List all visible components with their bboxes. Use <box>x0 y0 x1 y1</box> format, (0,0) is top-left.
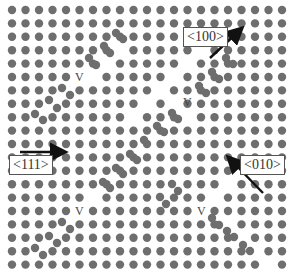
atom <box>116 113 124 121</box>
atom <box>21 140 29 148</box>
atom <box>48 33 56 41</box>
atom <box>224 113 232 121</box>
atom <box>278 260 286 268</box>
atom <box>116 73 124 81</box>
atom <box>264 234 272 242</box>
atom <box>89 140 97 148</box>
atom <box>48 46 56 54</box>
atom <box>35 46 43 54</box>
atom <box>8 19 16 27</box>
atom <box>160 128 168 136</box>
atom <box>102 220 110 228</box>
atom <box>35 86 43 94</box>
atom <box>8 220 16 228</box>
atom <box>100 42 108 50</box>
atom <box>62 19 70 27</box>
atom <box>143 247 151 255</box>
atom <box>222 54 230 62</box>
atom <box>183 6 191 14</box>
atom <box>89 207 97 215</box>
atom <box>278 86 286 94</box>
atom <box>156 113 164 121</box>
atom <box>62 260 70 268</box>
atom <box>156 234 164 242</box>
atom <box>224 247 232 255</box>
atom <box>210 59 218 67</box>
atom <box>174 115 182 123</box>
atom <box>210 113 218 121</box>
atom <box>251 19 259 27</box>
atom <box>237 113 245 121</box>
atom <box>230 233 238 241</box>
atom <box>224 73 232 81</box>
atom <box>237 59 245 67</box>
atom <box>116 220 124 228</box>
atom <box>278 126 286 134</box>
atom <box>156 140 164 148</box>
atom <box>129 33 137 41</box>
atom <box>251 234 259 242</box>
atom <box>119 35 127 43</box>
atom <box>99 178 107 186</box>
atom <box>89 46 97 54</box>
atom <box>62 46 70 54</box>
atom <box>237 220 245 228</box>
atom <box>224 140 232 148</box>
atom <box>75 193 83 201</box>
atom <box>237 207 245 215</box>
atom <box>197 126 205 134</box>
atom <box>35 234 43 242</box>
atom <box>116 59 124 67</box>
atom <box>21 59 29 67</box>
atom <box>35 126 43 134</box>
atom <box>75 86 83 94</box>
atom <box>156 6 164 14</box>
atom <box>264 113 272 121</box>
atom <box>170 59 178 67</box>
atom <box>89 113 97 121</box>
atom <box>183 86 191 94</box>
atom <box>237 140 245 148</box>
atom <box>197 140 205 148</box>
atom <box>208 68 216 76</box>
atom <box>102 113 110 121</box>
atom <box>143 73 151 81</box>
atom <box>53 104 61 112</box>
atom <box>278 220 286 228</box>
atom <box>174 187 182 195</box>
atom <box>106 184 114 192</box>
atom <box>251 140 259 148</box>
atom <box>48 6 56 14</box>
direction-label-100: <100> <box>183 27 228 47</box>
atom <box>75 59 83 67</box>
atom <box>112 164 120 172</box>
atom <box>8 86 16 94</box>
atom <box>224 167 232 175</box>
atom <box>116 247 124 255</box>
atom <box>129 46 137 54</box>
atom <box>8 193 16 201</box>
atom <box>197 220 205 228</box>
atom <box>102 153 110 161</box>
atom <box>237 126 245 134</box>
atom <box>129 140 137 148</box>
atom <box>156 167 164 175</box>
atom <box>278 113 286 121</box>
atom <box>183 46 191 54</box>
atom <box>48 86 56 94</box>
atom <box>75 180 83 188</box>
atom <box>48 247 56 255</box>
atom <box>48 260 56 268</box>
atom <box>264 73 272 81</box>
atom <box>210 234 218 242</box>
atom <box>66 225 74 233</box>
atom <box>143 234 151 242</box>
atom <box>129 247 137 255</box>
atom <box>251 86 259 94</box>
atom <box>21 180 29 188</box>
atom <box>102 140 110 148</box>
atom <box>21 33 29 41</box>
atom <box>102 234 110 242</box>
atom <box>251 59 259 67</box>
atom <box>170 46 178 54</box>
